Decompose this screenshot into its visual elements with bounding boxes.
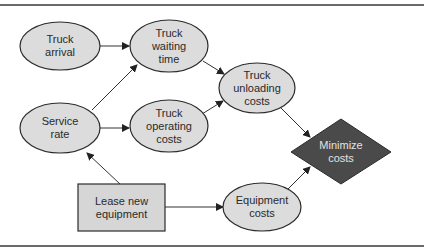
node-label-line: equipment — [96, 208, 147, 220]
node-label-line: costs — [249, 207, 275, 219]
node-label-line: rate — [51, 128, 70, 140]
node-truck-operating-costs: Truck operating costs — [130, 100, 208, 152]
node-label-line: Truck — [46, 33, 74, 45]
node-equipment-costs: Equipment costs — [223, 183, 301, 231]
edge-waiting-to-unloading — [203, 61, 224, 74]
node-label-line: waiting — [151, 40, 186, 52]
node-service-rate: Service rate — [20, 103, 100, 153]
node-label-line: Equipment — [236, 194, 289, 206]
node-lease-new-equipment: Lease new equipment — [78, 184, 165, 231]
edge-unloading-to-minimize — [280, 107, 310, 137]
node-label-line: time — [159, 53, 180, 65]
edge-operating-to-unloading — [202, 101, 223, 114]
node-label-line: Truck — [155, 27, 183, 39]
node-truck-waiting-time: Truck waiting time — [130, 20, 208, 72]
node-minimize-costs: Minimize costs — [291, 119, 391, 184]
node-label-line: Truck — [155, 107, 183, 119]
edge-lease-to-service — [87, 153, 120, 184]
node-truck-unloading-costs: Truck unloading costs — [219, 63, 295, 113]
node-truck-arrival: Truck arrival — [20, 22, 100, 70]
node-label-line: costs — [328, 152, 354, 164]
edge-service-to-waiting — [92, 65, 137, 110]
node-label-line: costs — [244, 95, 270, 107]
node-label-line: arrival — [45, 46, 75, 58]
node-label-line: costs — [156, 133, 182, 145]
influence-diagram: Truck arrival Truck waiting time Service… — [0, 0, 424, 248]
node-label-line: Lease new — [95, 195, 148, 207]
node-label-line: Truck — [243, 69, 271, 81]
node-label-line: unloading — [233, 82, 281, 94]
node-label-line: Service — [42, 115, 79, 127]
node-label-line: operating — [146, 120, 192, 132]
node-label-line: Minimize — [319, 139, 362, 151]
edge-equipment-to-minimize — [288, 167, 310, 189]
